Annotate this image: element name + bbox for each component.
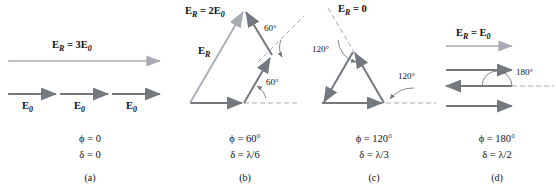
panel-d-graphic	[438, 0, 556, 140]
resultant-label-c: ER = 0	[338, 4, 367, 17]
phasor-diagram-figure: ER = 3E0 E0 E0 E0 ϕ = 0 δ = 0 (a)	[0, 0, 556, 191]
component-label-a-3: E0	[126, 101, 137, 114]
resultant-label-b: ER = 2E0	[185, 6, 225, 19]
component-vector-b-3	[246, 12, 272, 55]
component-label-a-1: E0	[22, 101, 33, 114]
component-vector-c-3	[324, 52, 353, 102]
delta-value-a: δ = 0	[0, 150, 180, 161]
panel-letter-b: (b)	[180, 172, 310, 183]
component-label-a-2: E0	[74, 101, 85, 114]
panel-c-graphic	[310, 0, 438, 140]
panel-c: ER = 0 120° 120° ϕ = 120° δ = λ/3 (c)	[310, 0, 438, 191]
delta-value-b: δ = λ/6	[180, 150, 310, 161]
delta-value-d: δ = λ/2	[438, 150, 556, 161]
resultant-label-a: ER = 3E0	[52, 40, 92, 53]
panel-a: ER = 3E0 E0 E0 E0 ϕ = 0 δ = 0 (a)	[0, 0, 180, 191]
angle-arc-c-lower	[390, 88, 414, 99]
panel-a-graphic	[0, 0, 180, 140]
panel-d: ER = E0 180° ϕ = 180° δ = λ/2 (d)	[438, 0, 556, 191]
panel-letter-d: (d)	[438, 172, 556, 183]
angle-label-d: 180°	[516, 68, 533, 77]
phi-value-b: ϕ = 60°	[180, 134, 310, 145]
phi-value-d: ϕ = 180°	[438, 134, 556, 145]
phi-value-c: ϕ = 120°	[310, 134, 438, 145]
resultant-label-d: ER = E0	[456, 28, 491, 41]
panel-letter-c: (c)	[310, 172, 438, 183]
angle-arc-d	[482, 71, 512, 86]
angle-label-b-lower: 60°	[266, 78, 279, 87]
angle-label-b-upper: 60°	[264, 24, 277, 33]
angle-label-c-upper: 120°	[312, 45, 329, 54]
panel-b: ER = 2E0 ER 60° 60° ϕ = 60° δ = λ/6 (b)	[180, 0, 310, 191]
resultant-short-label-b: ER	[198, 46, 210, 59]
phi-value-a: ϕ = 0	[0, 134, 180, 145]
angle-label-c-lower: 120°	[398, 72, 415, 81]
angle-arc-b-upper	[280, 40, 282, 57]
component-vector-c-2	[355, 53, 384, 103]
panel-letter-a: (a)	[0, 172, 180, 183]
delta-value-c: δ = λ/3	[310, 150, 438, 161]
panel-b-graphic	[180, 0, 310, 140]
angle-arc-b-lower	[257, 86, 266, 98]
